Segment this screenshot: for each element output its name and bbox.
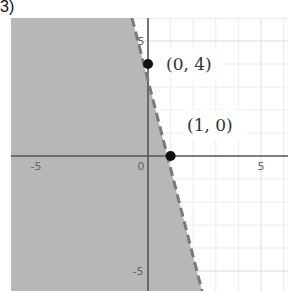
graph: -5 0 5 5 -5 (0, 4) (1, 0) xyxy=(0,0,288,291)
point-1-0 xyxy=(166,151,176,161)
x-tick-0: 0 xyxy=(138,160,145,173)
point-label-0-4: (0, 4) xyxy=(166,54,212,74)
x-tick-5: 5 xyxy=(258,160,265,173)
point-0-4 xyxy=(143,59,153,69)
x-tick-neg5: -5 xyxy=(31,160,42,173)
y-tick-5: 5 xyxy=(138,35,145,48)
point-label-1-0: (1, 0) xyxy=(187,115,233,135)
y-tick-neg5: -5 xyxy=(133,265,144,278)
